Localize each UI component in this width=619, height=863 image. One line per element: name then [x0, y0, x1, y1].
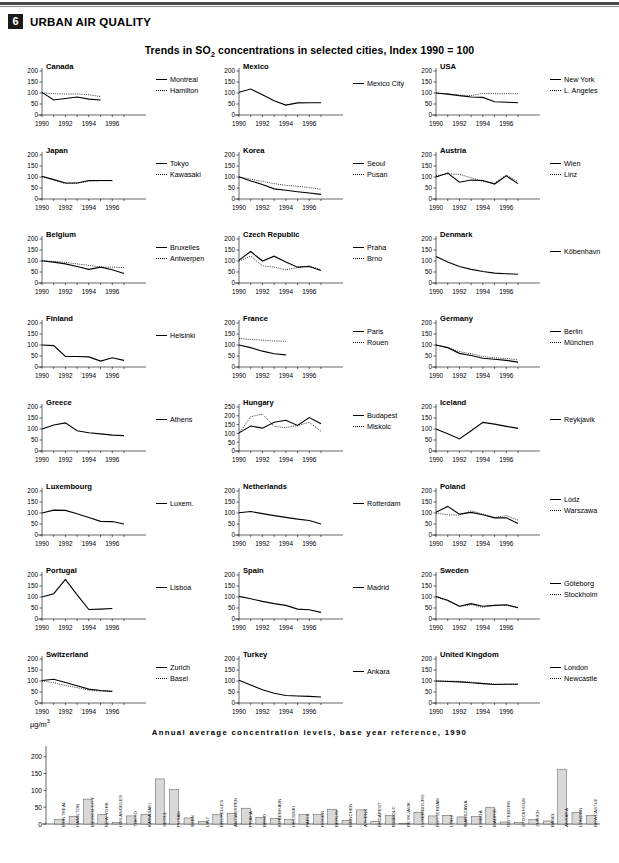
svg-text:200: 200: [224, 67, 235, 74]
svg-text:1996: 1996: [499, 288, 514, 295]
chart-legend: Luxem.: [156, 498, 194, 509]
svg-text:100: 100: [27, 593, 38, 600]
svg-text:150: 150: [224, 330, 235, 337]
svg-text:0: 0: [231, 531, 235, 538]
legend-label: Budapest: [367, 410, 397, 421]
bar-category-label: BRUXELLES: [219, 800, 224, 827]
legend-label: Lisboa: [170, 582, 191, 593]
svg-text:1994: 1994: [476, 372, 491, 379]
svg-text:1994: 1994: [279, 540, 294, 547]
bar-category-label: ROTTERDAM: [435, 798, 440, 827]
series-line-madrid: [239, 596, 321, 612]
svg-text:1994: 1994: [476, 120, 491, 127]
svg-text:1990: 1990: [35, 624, 50, 631]
solid-line-icon: [550, 331, 561, 332]
chart-legend: LondonNewcastle: [550, 662, 597, 684]
chart-cell: Iceland2001501005001990199219941996Reykj…: [394, 398, 603, 482]
legend-label: Wien: [564, 158, 580, 169]
legend-label: Paris: [367, 326, 383, 337]
chart-cell: Spain2001501005001990199219941996Madrid: [197, 566, 394, 650]
legend-label: Linz: [564, 169, 577, 180]
svg-text:1990: 1990: [232, 372, 247, 379]
svg-text:100: 100: [224, 89, 235, 96]
chart-svg: 2001501005001990199219941996: [394, 398, 603, 482]
svg-text:1994: 1994: [82, 120, 97, 127]
svg-text:1990: 1990: [429, 708, 444, 715]
bar-category-label: LONDON: [578, 807, 583, 827]
series-line-zurich: [42, 679, 112, 691]
series-line-seoul: [239, 177, 321, 195]
chart-legend: SeoulPusan: [353, 158, 387, 180]
svg-text:150: 150: [421, 162, 432, 169]
dotted-line-icon: [550, 510, 561, 511]
bar-category-label: LÓDZ: [449, 815, 454, 827]
chart-legend: LódzWarszawa: [550, 494, 597, 516]
svg-text:1992: 1992: [452, 204, 467, 211]
unit-exponent: 3: [47, 718, 50, 724]
svg-text:1996: 1996: [499, 624, 514, 631]
chart-legend: New YorkL. Angeles: [550, 74, 598, 96]
solid-line-icon: [156, 335, 167, 336]
dotted-line-icon: [156, 678, 167, 679]
series-line-lisboa: [42, 579, 112, 609]
solid-line-icon: [550, 251, 561, 252]
legend-label: Seoul: [367, 158, 385, 169]
svg-text:200: 200: [421, 487, 432, 494]
page-title-post: concentrations in selected cities, Index…: [215, 44, 474, 56]
svg-text:0: 0: [231, 363, 235, 370]
svg-text:50: 50: [31, 520, 39, 527]
page-title: Trends in SO2 concentrations in selected…: [0, 44, 619, 59]
legend-label: Göteborg: [564, 578, 594, 589]
chart-panel-usa: USA2001501005001990199219941996New YorkL…: [394, 62, 603, 146]
chart-legend: Lisboa: [156, 582, 191, 593]
svg-text:1994: 1994: [279, 120, 294, 127]
solid-line-icon: [550, 499, 561, 500]
svg-text:1996: 1996: [105, 540, 120, 547]
chart-svg: 2001501005001990199219941996: [197, 62, 394, 146]
svg-text:50: 50: [31, 352, 39, 359]
bar-category-label: ANKARA: [564, 808, 569, 827]
chart-panel-sweden: Sweden2001501005001990199219941996Götebo…: [394, 566, 603, 650]
legend-label: Berlin: [564, 326, 582, 337]
svg-text:1996: 1996: [499, 456, 514, 463]
legend-item: Tokyo: [156, 158, 201, 169]
dotted-line-icon: [550, 594, 561, 595]
solid-line-icon: [156, 163, 167, 164]
chart-row: Greece2001501005001990199219941996Athens…: [0, 398, 619, 482]
svg-text:100: 100: [31, 787, 42, 794]
svg-text:150: 150: [224, 582, 235, 589]
svg-text:1994: 1994: [279, 204, 294, 211]
bar-category-label: PARIS: [305, 813, 310, 827]
chart-legend: Ankara: [353, 666, 390, 677]
bar-chart-section: µg/m3 Annual average concentration level…: [0, 718, 619, 863]
bar-category-label: LINZ: [205, 817, 210, 827]
chart-legend: WienLinz: [550, 158, 580, 180]
svg-text:50: 50: [31, 184, 39, 191]
svg-text:1992: 1992: [58, 204, 73, 211]
chart-panel-title: Iceland: [438, 398, 468, 407]
svg-text:200: 200: [224, 412, 235, 419]
legend-label: Tokyo: [170, 158, 189, 169]
chart-panel-title: Switzerland: [44, 650, 90, 659]
svg-text:100: 100: [27, 173, 38, 180]
legend-item: Seoul: [353, 158, 387, 169]
svg-text:100: 100: [224, 341, 235, 348]
solid-line-icon: [353, 587, 364, 588]
svg-text:1994: 1994: [476, 456, 491, 463]
chart-legend: BerlinMünchen: [550, 326, 594, 348]
svg-text:200: 200: [421, 319, 432, 326]
chart-panel-title: Greece: [44, 398, 74, 407]
chart-panel-title: Canada: [44, 62, 75, 71]
svg-text:1994: 1994: [82, 624, 97, 631]
series-line-brno: [239, 256, 321, 270]
chart-panel-title: Poland: [438, 482, 467, 491]
chart-svg: 2001501005001990199219941996: [197, 566, 394, 650]
legend-label: New York: [564, 74, 594, 85]
svg-text:150: 150: [31, 770, 42, 777]
svg-text:1992: 1992: [452, 120, 467, 127]
legend-item: Lisboa: [156, 582, 191, 593]
chart-panel-mexico: Mexico2001501005001990199219941996Mexico…: [197, 62, 394, 146]
chart-panel-title: Japan: [44, 146, 70, 155]
dotted-line-icon: [550, 678, 561, 679]
bar-category-label: TOKYO: [133, 811, 138, 827]
